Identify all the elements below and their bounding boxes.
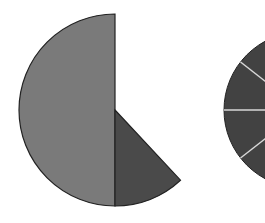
- pie-slice: [19, 14, 115, 206]
- partial-pie-chart: [19, 14, 180, 206]
- pie-slice: [115, 110, 180, 206]
- pie-chart-figure: [0, 0, 265, 223]
- cropped-pie-chart: [224, 32, 265, 188]
